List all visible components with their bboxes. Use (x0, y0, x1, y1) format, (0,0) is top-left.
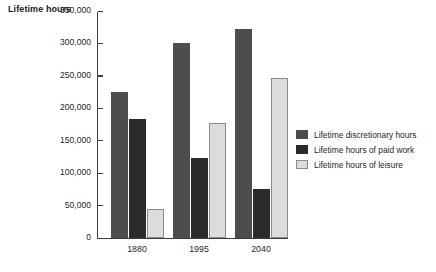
legend-item: Lifetime discretionary hours (296, 128, 416, 141)
legend-label: Lifetime discretionary hours (314, 130, 416, 140)
bar (235, 29, 252, 238)
x-axis-label: 2040 (231, 244, 291, 254)
plot-area: 050,000100,000150,000200,000250,000300,0… (97, 12, 288, 239)
bar (173, 43, 190, 238)
legend-label: Lifetime hours of paid work (314, 145, 414, 155)
legend-swatch (296, 130, 308, 139)
bar (129, 119, 146, 238)
bar-group (233, 12, 291, 238)
legend-item: Lifetime hours of paid work (296, 143, 416, 156)
y-axis-tick-label: 150,000 (60, 135, 91, 145)
bar-groups (98, 12, 288, 238)
y-axis-tick-label: 350,000 (60, 5, 91, 15)
y-axis-tick-label: 250,000 (60, 70, 91, 80)
legend-swatch (296, 145, 308, 154)
bar (253, 189, 270, 238)
bar (191, 158, 208, 238)
bar (111, 92, 128, 238)
legend-label: Lifetime hours of leisure (314, 160, 403, 170)
legend-swatch (296, 160, 308, 169)
bar-group (171, 12, 229, 238)
y-axis-tick-label: 300,000 (60, 37, 91, 47)
y-axis-tick-label: 50,000 (65, 200, 91, 210)
bar-group (109, 12, 167, 238)
bar (209, 123, 226, 238)
y-axis-tick-label: 100,000 (60, 167, 91, 177)
x-axis-label: 1995 (169, 244, 229, 254)
x-axis-label: 1880 (107, 244, 167, 254)
y-axis-tick-label: 0 (86, 232, 91, 242)
y-axis-tick-label: 200,000 (60, 102, 91, 112)
bar-chart: Lifetime hours 050,000100,000150,000200,… (0, 0, 436, 272)
chart-legend: Lifetime discretionary hoursLifetime hou… (296, 128, 416, 173)
bar (147, 209, 164, 238)
legend-item: Lifetime hours of leisure (296, 158, 416, 171)
bar (271, 78, 288, 238)
